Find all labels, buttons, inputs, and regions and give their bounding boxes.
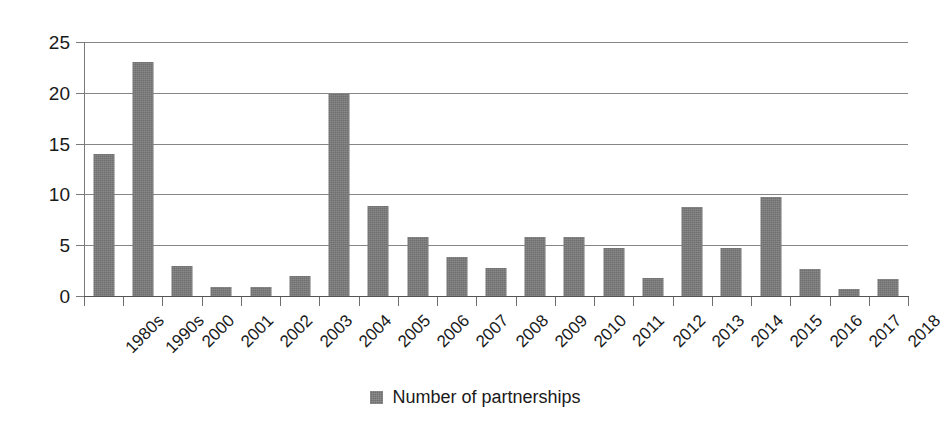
bar-2018[interactable]	[878, 279, 899, 296]
x-tick	[633, 297, 634, 306]
bar-slot	[123, 42, 162, 296]
x-tick	[751, 297, 752, 306]
bar-slot	[437, 42, 476, 296]
x-tick	[319, 297, 320, 306]
x-tick	[594, 297, 595, 306]
bar-slot	[830, 42, 869, 296]
bar-2015[interactable]	[760, 197, 781, 296]
bar-2003[interactable]	[289, 276, 310, 296]
bar-slot	[633, 42, 672, 296]
bar-2011[interactable]	[603, 248, 624, 296]
bar-slot	[476, 42, 515, 296]
x-tick	[84, 297, 85, 306]
bar-2013[interactable]	[682, 207, 703, 296]
x-tick	[476, 297, 477, 306]
x-axis-label-2013: 2013	[708, 311, 749, 352]
bar-1990s[interactable]	[132, 62, 153, 296]
x-axis-label-2005: 2005	[394, 311, 435, 352]
x-axis-label-2006: 2006	[433, 311, 474, 352]
x-axis-label-2004: 2004	[355, 311, 396, 352]
bar-2006[interactable]	[407, 237, 428, 296]
bar-slot	[790, 42, 829, 296]
legend-color-swatch	[370, 391, 383, 404]
y-tick-25	[76, 42, 84, 43]
bar-2000[interactable]	[172, 266, 193, 296]
bar-2016[interactable]	[799, 269, 820, 296]
x-axis-label-2000: 2000	[198, 311, 239, 352]
x-axis-label-2002: 2002	[276, 311, 317, 352]
bar-slot	[869, 42, 908, 296]
x-axis-label-2016: 2016	[826, 311, 867, 352]
x-axis-label-2011: 2011	[629, 311, 669, 351]
y-tick-5	[76, 245, 84, 246]
x-tick	[516, 297, 517, 306]
bar-2014[interactable]	[721, 248, 742, 296]
x-axis-label-2014: 2014	[747, 311, 788, 352]
y-tick-15	[76, 144, 84, 145]
bar-slot	[241, 42, 280, 296]
x-tick	[673, 297, 674, 306]
y-axis-label-0: 0	[20, 287, 70, 306]
y-tick-0	[76, 296, 84, 297]
x-tick	[437, 297, 438, 306]
x-axis-label-2007: 2007	[473, 311, 514, 352]
y-axis-label-20: 20	[20, 83, 70, 102]
bar-slot	[162, 42, 201, 296]
x-axis-label-1980s: 1980s	[122, 311, 169, 358]
x-tick	[712, 297, 713, 306]
bar-slot	[319, 42, 358, 296]
bar-2005[interactable]	[368, 206, 389, 296]
x-axis-label-2009: 2009	[551, 311, 592, 352]
y-axis-label-5: 5	[20, 236, 70, 255]
bar-slot	[280, 42, 319, 296]
bar-2004[interactable]	[329, 94, 350, 296]
x-tick	[908, 297, 909, 306]
bar-1980s[interactable]	[93, 154, 114, 296]
bar-slot	[712, 42, 751, 296]
bar-slot	[359, 42, 398, 296]
legend-label: Number of partnerships	[392, 388, 580, 406]
x-axis-label-2018: 2018	[904, 311, 945, 352]
x-tick	[280, 297, 281, 306]
x-tick	[869, 297, 870, 306]
bar-slot	[594, 42, 633, 296]
bar-slot	[751, 42, 790, 296]
x-tick	[162, 297, 163, 306]
bar-2002[interactable]	[250, 287, 271, 296]
x-axis-line	[84, 296, 909, 297]
legend: Number of partnerships	[0, 388, 951, 406]
y-axis-label-15: 15	[20, 134, 70, 153]
x-axis-label-2008: 2008	[512, 311, 553, 352]
y-tick-10	[76, 194, 84, 195]
x-axis-label-2012: 2012	[669, 311, 710, 352]
y-axis-label-25: 25	[20, 33, 70, 52]
x-tick	[790, 297, 791, 306]
bar-2012[interactable]	[642, 278, 663, 296]
x-tick	[359, 297, 360, 306]
x-axis-label-2015: 2015	[786, 311, 827, 352]
bar-slot	[84, 42, 123, 296]
bar-2010[interactable]	[564, 237, 585, 296]
x-axis-label-2010: 2010	[590, 311, 631, 352]
bar-2008[interactable]	[485, 268, 506, 296]
y-axis-label-10: 10	[20, 185, 70, 204]
bar-slot	[398, 42, 437, 296]
x-tick	[555, 297, 556, 306]
bar-slot	[202, 42, 241, 296]
bar-slot	[516, 42, 555, 296]
x-axis-label-2003: 2003	[316, 311, 357, 352]
x-axis-label-2017: 2017	[865, 311, 906, 352]
x-tick	[830, 297, 831, 306]
y-tick-20	[76, 93, 84, 94]
bar-2007[interactable]	[446, 257, 467, 296]
bar-slot	[555, 42, 594, 296]
bar-chart: 25 20 15 10 5 0 1980s1990s20002001200220…	[0, 0, 951, 428]
x-tick	[123, 297, 124, 306]
bar-2009[interactable]	[525, 237, 546, 296]
x-tick	[202, 297, 203, 306]
bars-container	[84, 42, 908, 296]
bar-2001[interactable]	[211, 287, 232, 296]
bar-2017[interactable]	[839, 289, 860, 296]
x-axis-label-2001: 2001	[237, 311, 278, 352]
x-tick	[398, 297, 399, 306]
